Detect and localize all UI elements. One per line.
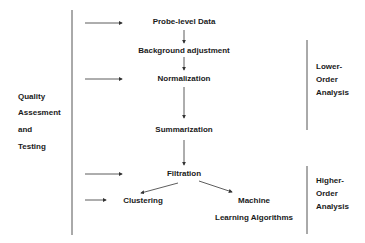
quality-label-line-3: and bbox=[18, 125, 32, 135]
higher-order-label-line-3: Analysis bbox=[316, 202, 349, 212]
quality-label-line-1: Quality bbox=[18, 92, 45, 102]
connector-layer bbox=[0, 0, 365, 243]
step-learning-algorithms: Learning Algorithms bbox=[215, 213, 293, 223]
quality-label-line-4: Testing bbox=[18, 142, 46, 152]
arrow-filtration-to-clustering bbox=[141, 183, 178, 193]
step-clustering: Clustering bbox=[123, 196, 163, 206]
arrow-filtration-to-ml bbox=[199, 181, 232, 192]
lower-order-label-line-1: Lower- bbox=[316, 62, 342, 72]
lower-order-label-line-2: Order bbox=[316, 75, 338, 85]
step-filtration: Filtration bbox=[167, 169, 201, 179]
step-probe-level-data: Probe-level Data bbox=[153, 17, 216, 27]
step-machine: Machine bbox=[238, 196, 270, 206]
higher-order-label-line-2: Order bbox=[316, 189, 338, 199]
lower-order-label-line-3: Analysis bbox=[316, 88, 349, 98]
quality-label-line-2: Assesment bbox=[18, 108, 61, 118]
higher-order-label-line-1: Higher- bbox=[316, 176, 344, 186]
step-summarization: Summarization bbox=[155, 125, 212, 135]
step-normalization: Normalization bbox=[158, 74, 211, 84]
step-background-adjustment: Background adjustment bbox=[138, 46, 230, 56]
